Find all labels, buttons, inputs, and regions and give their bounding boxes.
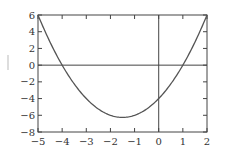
x-tick-label: −5 [31, 136, 46, 147]
x-tick-label: −4 [55, 136, 70, 147]
x-tick-label: 1 [180, 136, 186, 147]
y-tick-label: −2 [20, 76, 35, 87]
y-tick-labels: 6420−2−4−6−8 [20, 10, 35, 138]
x-tick-label: −1 [127, 136, 142, 147]
chart: −5−4−3−2−1012 6420−2−4−6−8 [0, 0, 225, 151]
plot-frame [38, 15, 207, 132]
y-tick-label: 0 [29, 60, 35, 71]
x-tick-label: −2 [103, 136, 118, 147]
y-tick-label: 4 [29, 26, 35, 37]
x-tick-label: 2 [204, 136, 210, 147]
y-tick-label: 2 [29, 43, 35, 54]
y-tick-label: −4 [20, 93, 35, 104]
x-tick-label: −3 [79, 136, 94, 147]
axis-ticks [38, 15, 207, 132]
function-curve [38, 15, 207, 117]
y-tick-label: −6 [20, 110, 35, 121]
y-tick-label: 6 [29, 10, 35, 21]
x-tick-labels: −5−4−3−2−1012 [31, 136, 211, 147]
zero-axis-lines [38, 15, 207, 132]
y-tick-label: −8 [20, 127, 35, 138]
x-tick-label: 0 [156, 136, 162, 147]
